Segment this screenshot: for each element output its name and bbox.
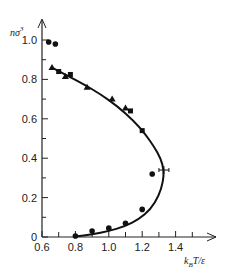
x-tick-label: 1.2 (135, 241, 150, 253)
circle-marker-icon (73, 233, 79, 239)
y-tick-label: 1.0 (22, 34, 37, 46)
circle-marker-icon (89, 228, 95, 234)
y-tick-label: 0.8 (22, 73, 37, 85)
coexistence-curve-line (52, 68, 164, 237)
x-tick-label: 1.0 (101, 241, 116, 253)
x-axis-label: kBT/ε (184, 255, 205, 269)
y-tick-label: 0.4 (22, 152, 37, 164)
circle-marker-icon (106, 225, 112, 231)
axes: 00.20.40.60.81.00.60.81.01.21.4 (22, 19, 216, 253)
square-marker-icon (140, 128, 145, 133)
phase-diagram-chart: 00.20.40.60.81.00.60.81.01.21.4 nσ3 kBT/… (0, 0, 226, 280)
y-tick-label: 0.2 (22, 192, 37, 204)
x-tick-label: 0.6 (34, 241, 49, 253)
x-tick-label: 0.8 (68, 241, 83, 253)
triangle-marker-icon (49, 64, 56, 70)
circle-marker-icon (123, 220, 129, 226)
critical-point-icon (159, 166, 169, 174)
coexistence-curve (52, 68, 169, 237)
y-tick-label: 0.6 (22, 113, 37, 125)
circle-marker-icon (53, 41, 59, 47)
square-marker-icon (128, 108, 133, 113)
triangle-marker-icon (109, 96, 116, 102)
square-marker-icon (68, 72, 73, 77)
circle-marker-icon (46, 39, 52, 45)
square-marker-icon (56, 69, 61, 74)
x-tick-label: 1.4 (168, 241, 183, 253)
data-markers (46, 39, 155, 239)
triangle-marker-icon (122, 104, 129, 110)
circle-marker-icon (139, 207, 145, 213)
circle-marker-icon (149, 171, 155, 177)
